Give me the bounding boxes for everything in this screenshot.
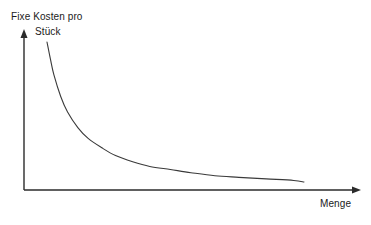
- y-axis-arrow-icon: [21, 29, 28, 38]
- y-axis-label-line2: Stück: [35, 26, 61, 38]
- y-axis-label-line1: Fixe Kosten pro: [11, 11, 83, 23]
- x-axis-label: Menge: [320, 198, 351, 210]
- x-axis-arrow-icon: [352, 187, 361, 194]
- fixed-cost-per-unit-curve: [47, 42, 304, 182]
- chart-figure: Fixe Kosten pro Stück Menge: [0, 0, 371, 225]
